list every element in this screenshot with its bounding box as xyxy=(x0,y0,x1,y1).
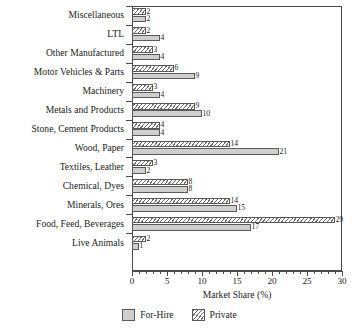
bar-private: 3 xyxy=(132,84,153,91)
category-label: Food, Feed, Beverages xyxy=(36,219,124,229)
chart-row: Stone, Cement Products44 xyxy=(0,120,359,139)
row-bars: 88 xyxy=(132,176,359,195)
legend-item-for-hire: For-Hire xyxy=(122,309,173,321)
bar-value-label: 2 xyxy=(147,167,151,175)
bar-value-label: 1 xyxy=(140,242,144,250)
bar-private: 14 xyxy=(132,141,230,148)
bar-value-label: 3 xyxy=(154,46,158,54)
bar-private: 3 xyxy=(132,46,153,53)
bar-value-label: 2 xyxy=(147,15,151,23)
bar-private: 9 xyxy=(132,103,195,110)
row-bars: 44 xyxy=(132,120,359,139)
x-tick-label: 20 xyxy=(267,277,276,286)
x-tick-minor xyxy=(244,271,245,274)
x-tick-minor xyxy=(223,271,224,274)
legend-item-private: Private xyxy=(192,309,237,321)
chart-row: Minerals, Ores1415 xyxy=(0,195,359,214)
bar-forhire: 21 xyxy=(132,148,279,155)
row-bars: 22 xyxy=(132,6,359,25)
bar-private: 8 xyxy=(132,179,188,186)
bar-private: 2 xyxy=(132,27,146,34)
chart-row: Machinery34 xyxy=(0,82,359,101)
x-tick-label: 15 xyxy=(232,277,241,286)
chart-rows: Miscellaneous22LTL24Other Manufactured34… xyxy=(0,6,359,271)
chart-row: LTL24 xyxy=(0,25,359,44)
legend-swatch-private xyxy=(192,309,205,321)
x-tick-minor xyxy=(328,271,329,274)
category-label: Other Manufactured xyxy=(46,49,124,59)
x-tick-label: 30 xyxy=(337,277,346,286)
bar-value-label: 6 xyxy=(175,65,179,73)
category-label: Stone, Cement Products xyxy=(32,124,124,134)
x-tick-minor xyxy=(174,271,175,274)
row-bars: 1421 xyxy=(132,139,359,158)
x-tick-minor xyxy=(279,271,280,274)
bar-value-label: 10 xyxy=(203,110,211,118)
bar-value-label: 9 xyxy=(196,103,200,111)
x-tick-minor xyxy=(209,271,210,274)
bar-forhire: 4 xyxy=(132,35,160,42)
category-label: Miscellaneous xyxy=(69,11,124,21)
bar-private: 4 xyxy=(132,122,160,129)
bar-value-label: 14 xyxy=(231,140,239,148)
x-tick-minor xyxy=(181,271,182,274)
x-tick-minor xyxy=(251,271,252,274)
row-bars: 32 xyxy=(132,157,359,176)
bar-forhire: 2 xyxy=(132,16,146,23)
chart-row: Wood, Paper1421 xyxy=(0,139,359,158)
x-tick-minor xyxy=(300,271,301,274)
x-tick-label: 25 xyxy=(302,277,311,286)
legend-label-private: Private xyxy=(210,310,237,320)
category-label: Motor Vehicles & Parts xyxy=(34,67,124,77)
chart-row: Metals and Products910 xyxy=(0,101,359,120)
bar-forhire: 1 xyxy=(132,243,139,250)
x-tick-minor xyxy=(146,271,147,274)
x-tick-minor xyxy=(321,271,322,274)
bar-value-label: 4 xyxy=(161,129,165,137)
row-bars: 34 xyxy=(132,82,359,101)
bar-value-label: 29 xyxy=(336,216,344,224)
row-bars: 24 xyxy=(132,25,359,44)
x-tick-minor xyxy=(335,271,336,274)
x-tick-minor xyxy=(216,271,217,274)
bar-forhire: 2 xyxy=(132,167,146,174)
x-tick-minor xyxy=(230,271,231,274)
bar-value-label: 8 xyxy=(189,186,193,194)
chart-row: Chemical, Dyes88 xyxy=(0,176,359,195)
bar-private: 29 xyxy=(132,217,335,224)
x-tick-minor xyxy=(188,271,189,274)
bar-forhire: 10 xyxy=(132,110,202,117)
bar-value-label: 3 xyxy=(154,84,158,92)
row-bars: 2917 xyxy=(132,214,359,233)
legend-swatch-for-hire xyxy=(122,309,135,321)
bar-private: 2 xyxy=(132,8,146,15)
category-label: Metals and Products xyxy=(46,105,124,115)
category-label: Live Animals xyxy=(72,238,124,248)
chart-row: Motor Vehicles & Parts69 xyxy=(0,63,359,82)
bar-value-label: 4 xyxy=(161,34,165,42)
bar-forhire: 4 xyxy=(132,129,160,136)
bar-value-label: 2 xyxy=(147,27,151,35)
x-axis-title: Market Share (%) xyxy=(132,289,342,300)
x-tick-minor xyxy=(258,271,259,274)
bar-value-label: 4 xyxy=(161,53,165,61)
bar-value-label: 21 xyxy=(280,148,288,156)
bar-forhire: 15 xyxy=(132,205,237,212)
bar-value-label: 2 xyxy=(147,235,151,243)
chart-row: Miscellaneous22 xyxy=(0,6,359,25)
chart-row: Food, Feed, Beverages2917 xyxy=(0,214,359,233)
x-tick-minor xyxy=(286,271,287,274)
bar-value-label: 17 xyxy=(252,224,260,232)
x-tick-minor xyxy=(265,271,266,274)
category-label: Machinery xyxy=(82,86,124,96)
category-label: Textiles, Leather xyxy=(60,162,124,172)
x-tick-minor xyxy=(293,271,294,274)
bar-value-label: 4 xyxy=(161,91,165,99)
bar-forhire: 4 xyxy=(132,92,160,99)
category-label: Chemical, Dyes xyxy=(63,181,124,191)
bar-forhire: 17 xyxy=(132,224,251,231)
category-label: Minerals, Ores xyxy=(67,200,124,210)
bar-value-label: 9 xyxy=(196,72,200,80)
market-share-bar-chart: Miscellaneous22LTL24Other Manufactured34… xyxy=(0,0,359,335)
row-bars: 21 xyxy=(132,233,359,252)
